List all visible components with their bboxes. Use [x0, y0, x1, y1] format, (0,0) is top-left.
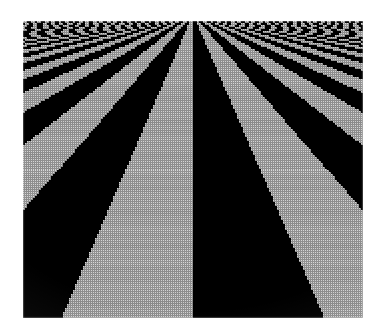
checkerboard-canvas: [23, 21, 363, 318]
perspective-checkerboard-figure: [23, 21, 363, 318]
page-root: [0, 0, 380, 335]
